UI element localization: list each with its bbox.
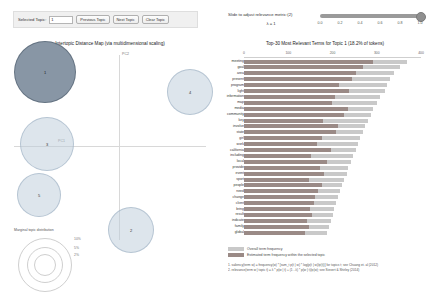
next-topic-button[interactable]: Next Topic — [113, 15, 139, 24]
term-label[interactable]: state — [184, 130, 244, 135]
term-label[interactable]: including — [184, 153, 244, 158]
bar-row: program — [226, 83, 424, 88]
bar-row: bring — [226, 207, 424, 212]
bar-row: work — [226, 142, 424, 147]
bar-row: meeting — [226, 59, 424, 64]
intertopic-distance-map[interactable]: PC2 PC1 14352 — [6, 49, 214, 254]
topic-frequency-bar — [244, 189, 318, 193]
topic-frequency-bar — [244, 136, 322, 140]
bar-row: result — [226, 212, 424, 217]
term-label[interactable]: goal — [184, 65, 244, 70]
term-label[interactable]: california — [184, 148, 244, 153]
term-label[interactable]: need — [184, 189, 244, 194]
bar-row: goal — [226, 65, 424, 70]
legend-overall-swatch — [228, 247, 244, 251]
topic-frequency-bar — [244, 101, 332, 105]
term-label[interactable]: sport — [184, 177, 244, 182]
legend-overall-label: Overall term frequency — [247, 247, 282, 251]
term-label[interactable]: local — [184, 159, 244, 164]
term-label[interactable]: event — [184, 171, 244, 176]
topic-frequency-bar — [244, 89, 349, 93]
slider-tick-0: 0.0 — [318, 21, 323, 25]
legend-estimated: Estimated term frequency within the sele… — [228, 253, 424, 257]
topic-frequency-bar — [244, 83, 339, 87]
topic-bubble-3[interactable]: 3 — [20, 117, 74, 171]
term-label[interactable]: meeting — [184, 59, 244, 64]
topic-frequency-bar — [244, 166, 320, 170]
bar-row: california — [226, 148, 424, 153]
topic-bubble-2[interactable]: 2 — [108, 207, 154, 253]
bar-row: people — [226, 183, 424, 188]
term-label[interactable]: work — [184, 142, 244, 147]
term-label[interactable]: indicate — [184, 218, 244, 223]
bar-row: light — [226, 89, 424, 94]
topic-bubble-label: 3 — [46, 142, 48, 147]
topic-frequency-bar — [244, 201, 314, 205]
marginal-ring-10% — [18, 238, 72, 292]
term-label[interactable]: bring — [184, 207, 244, 212]
topic-frequency-bar — [244, 124, 338, 128]
bar-chart-legend: Overall term frequency Estimated term fr… — [228, 247, 424, 258]
term-label[interactable]: map — [184, 100, 244, 105]
bar-row: client — [226, 201, 424, 206]
term-label[interactable]: global — [184, 230, 244, 235]
term-label[interactable]: key — [184, 118, 244, 123]
topic-control-bar: Selected Topic: Previous Topic Next Topi… — [13, 11, 198, 28]
term-label[interactable]: area — [184, 71, 244, 76]
topic-frequency-bar — [244, 160, 327, 164]
term-label[interactable]: light — [184, 89, 244, 94]
bar-row: area — [226, 71, 424, 76]
topic-frequency-bar — [244, 183, 322, 187]
marginal-legend-caption: Marginal topic distribution — [14, 228, 84, 232]
slider-tick-2: 0.4 — [358, 21, 363, 25]
selected-topic-input[interactable] — [49, 16, 73, 24]
topic-frequency-bar — [244, 65, 363, 69]
topic-frequency-bar — [244, 195, 315, 199]
term-label[interactable]: people — [184, 183, 244, 188]
x-tick-300: 300 — [374, 51, 380, 55]
term-label[interactable]: family — [184, 224, 244, 229]
topic-frequency-bar — [244, 95, 335, 99]
term-label[interactable]: result — [184, 212, 244, 217]
term-label[interactable]: involve — [184, 124, 244, 129]
term-label[interactable]: client — [184, 201, 244, 206]
marginal-topic-distribution-legend: Marginal topic distribution 2%5%10% — [14, 228, 84, 272]
topic-bubble-5[interactable]: 5 — [17, 173, 61, 217]
topic-bubble-1[interactable]: 1 — [14, 41, 76, 103]
topic-frequency-bar — [244, 107, 348, 111]
selected-topic-label: Selected Topic: — [18, 17, 46, 22]
relevance-slider-group: Slide to adjust relevance metric:(2) λ =… — [228, 8, 424, 34]
marginal-ring-label-2%: 2% — [74, 253, 79, 257]
term-label[interactable]: information — [184, 94, 244, 99]
bar-row: information — [226, 94, 424, 99]
term-label[interactable]: community — [184, 112, 244, 117]
topic-frequency-bar — [244, 119, 323, 123]
relevance-slider-handle[interactable] — [416, 12, 426, 22]
bar-row: change — [226, 195, 424, 200]
term-label[interactable]: provide — [184, 165, 244, 170]
bar-row: state — [226, 130, 424, 135]
bar-row: provide — [226, 165, 424, 170]
term-label[interactable]: media — [184, 106, 244, 111]
x-tick-100: 100 — [285, 51, 291, 55]
bar-row: map — [226, 100, 424, 105]
x-tick-200: 200 — [330, 51, 336, 55]
term-label[interactable]: present — [184, 77, 244, 82]
term-label[interactable]: change — [184, 195, 244, 200]
topic-frequency-bar — [244, 130, 336, 134]
lambda-value-label: λ = 1 — [228, 21, 314, 26]
bar-row: event — [226, 171, 424, 176]
topic-frequency-bar — [244, 142, 317, 146]
relevance-slider-track[interactable] — [320, 14, 420, 18]
term-label[interactable]: program — [184, 83, 244, 88]
pc2-axis-label: PC2 — [122, 52, 129, 56]
clear-topic-button[interactable]: Clear Topic — [142, 15, 169, 24]
previous-topic-button[interactable]: Previous Topic — [76, 15, 109, 24]
term-label[interactable]: girl — [184, 136, 244, 141]
x-tick-0: 0 — [243, 51, 245, 55]
marginal-ring-label-5%: 5% — [74, 246, 79, 250]
topic-frequency-bar — [244, 60, 373, 64]
bar-row: local — [226, 159, 424, 164]
slider-tick-3: 0.6 — [378, 21, 383, 25]
topic-frequency-bar — [244, 207, 310, 211]
